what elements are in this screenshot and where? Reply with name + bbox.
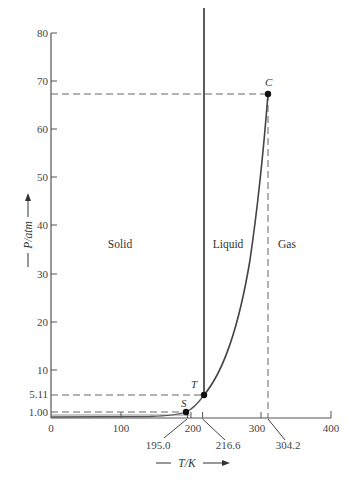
annotation-195: 195.0 [146,439,171,451]
x-tick-400: 400 [323,422,340,434]
y-axis-arrow-icon [25,193,31,201]
y-tick-80: 80 [37,27,49,39]
y-axis-title: P/atm [22,221,34,249]
sublimation-point [183,409,189,415]
x-tick-300: 300 [249,422,266,434]
y-tick-70: 70 [37,75,49,87]
region-gas: Gas [278,238,296,250]
phase-diagram: 80 70 60 50 40 30 20 10 5.11 1.00 0 100 … [0,0,354,482]
y-tick-30: 30 [37,268,49,280]
annotation-216: 216.6 [216,439,241,451]
x-tick-0: 0 [48,422,54,434]
x-tick-200: 200 [185,422,202,434]
y-tick-10: 10 [37,364,49,376]
annotation-leaders [164,419,285,440]
y-tick-40: 40 [37,219,49,231]
y-tick-50: 50 [37,171,49,183]
point-label-s: S [181,397,187,409]
point-label-c: C [265,76,273,88]
x-axis-title: T/K [178,457,197,469]
y-tick-20: 20 [37,316,49,328]
y-ticks [51,33,57,370]
region-liquid: Liquid [213,238,244,251]
x-tick-100: 100 [113,422,130,434]
reference-dashes [51,94,268,418]
x-axis-arrow-icon [222,460,230,466]
triple-point [201,392,207,398]
point-label-t: T [191,378,198,390]
annotation-304: 304.2 [276,439,301,451]
y-tick-5-11: 5.11 [29,388,48,400]
y-axis-title-group: P/atm [22,193,34,267]
region-solid: Solid [108,238,133,250]
critical-point [265,91,271,97]
y-tick-1-00: 1.00 [29,406,49,418]
y-tick-60: 60 [37,123,49,135]
